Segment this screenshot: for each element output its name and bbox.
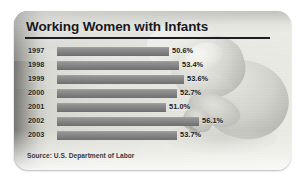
bar-value-label: 50.6% [172, 46, 193, 55]
chart-source-note: Source: U.S. Department of Labor [27, 152, 134, 159]
bar-row-year: 1998 [28, 60, 44, 69]
bar-row: 2000 52.7% [14, 87, 291, 101]
bar-row-year: 2001 [28, 102, 44, 111]
bar-row: 2002 56.1% [14, 115, 291, 129]
bar-value-label: 56.1% [202, 116, 223, 125]
bar-rows: 1997 50.6% 1998 53.4% 1999 53.6% 2000 [14, 45, 291, 143]
bar-rect [57, 89, 177, 98]
bar-row: 1998 53.4% [14, 59, 291, 73]
bar-row: 2003 53.7% [14, 129, 291, 143]
bar-row-year: 1997 [28, 46, 44, 55]
chart-title: Working Women with Infants [26, 19, 208, 34]
bar-rect [57, 117, 199, 126]
bar-rect [57, 131, 177, 140]
bar-rect [57, 47, 169, 56]
bar-row: 2001 51.0% [14, 101, 291, 115]
bar-row-year: 2000 [28, 88, 44, 97]
bar-value-label: 52.7% [180, 88, 201, 97]
bar-row-year: 1999 [28, 74, 44, 83]
bar-rect [57, 75, 184, 84]
screenshot-root: Working Women with Infants 1997 50.6% 19… [0, 0, 305, 180]
bar-row: 1999 53.6% [14, 73, 291, 87]
bar-value-label: 53.7% [180, 130, 201, 139]
chart-content: Working Women with Infants 1997 50.6% 19… [14, 11, 291, 170]
bar-row-year: 2003 [28, 130, 44, 139]
bar-row: 1997 50.6% [14, 45, 291, 59]
bar-value-label: 51.0% [169, 102, 190, 111]
title-underline-rule [25, 37, 270, 39]
bar-rect [57, 61, 179, 70]
chart-card: Working Women with Infants 1997 50.6% 19… [14, 11, 291, 170]
bar-value-label: 53.6% [187, 74, 208, 83]
bar-rect [57, 103, 166, 112]
bar-value-label: 53.4% [182, 60, 203, 69]
bar-row-year: 2002 [28, 116, 44, 125]
